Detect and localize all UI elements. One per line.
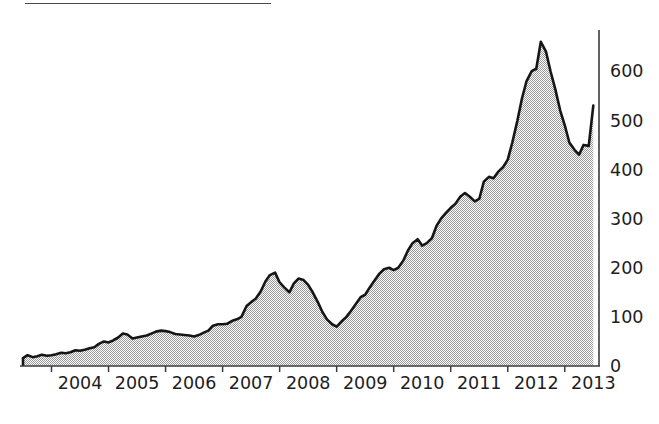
x-axis-tick-marks [52,366,565,372]
x-axis-tick-label: 2005 [115,373,160,393]
figure-container: 2004200520062007200820092010201120122013… [0,0,659,424]
x-axis-tick-label: 2004 [58,373,103,393]
y-axis-tick-labels: 0100200300400500600 [610,61,643,376]
x-axis-tick-label: 2010 [400,373,445,393]
y-axis-tick-label: 600 [610,61,643,81]
y-axis-tick-label: 500 [610,111,643,131]
chart-plot-area: 2004200520062007200820092010201120122013… [0,0,659,424]
y-axis-tick-label: 200 [610,258,643,278]
y-axis-tick-label: 400 [610,160,643,180]
x-axis-tick-label: 2011 [457,373,502,393]
x-axis-tick-label: 2013 [571,373,616,393]
x-axis-tick-labels: 2004200520062007200820092010201120122013 [58,373,616,393]
x-axis-tick-label: 2012 [514,373,559,393]
x-axis-tick-label: 2008 [286,373,331,393]
x-axis-tick-label: 2009 [343,373,388,393]
series-area-fill [23,42,593,366]
y-axis-tick-label: 300 [610,209,643,229]
y-axis-tick-label: 100 [610,307,643,327]
area-chart-svg: 2004200520062007200820092010201120122013… [0,0,659,424]
y-axis-tick-label: 0 [610,356,621,376]
x-axis-tick-label: 2007 [229,373,274,393]
x-axis-tick-label: 2006 [172,373,217,393]
